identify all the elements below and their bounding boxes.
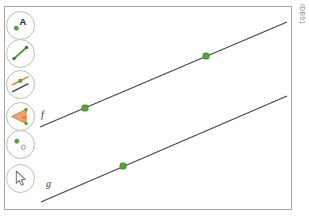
- geometry-canvas[interactable]: fg: [0, 0, 309, 219]
- line-g[interactable]: [41, 96, 287, 202]
- line-label-g: g: [46, 178, 51, 189]
- point-on-line-f[interactable]: [82, 105, 88, 111]
- line-f[interactable]: [40, 22, 287, 127]
- point-on-line-f[interactable]: [203, 53, 209, 59]
- figure-id-label: IDB91: [299, 4, 306, 25]
- point-on-line-g[interactable]: [120, 163, 126, 169]
- line-label-f: f: [41, 109, 45, 120]
- geometry-app-window: A α fg I: [0, 0, 309, 219]
